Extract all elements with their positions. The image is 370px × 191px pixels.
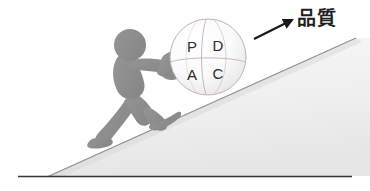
pdca-letter-c: C [213, 65, 224, 82]
pdca-letter-p: P [187, 38, 197, 55]
pdca-letter-a: A [187, 66, 197, 83]
pdca-letter-d: D [213, 37, 224, 54]
direction-arrow-icon [254, 20, 292, 39]
quality-label: 品質 [297, 9, 337, 28]
pdca-ball-sphere [170, 19, 246, 95]
person-back-foot [87, 137, 113, 148]
pdca-ball: P D A C [170, 19, 246, 95]
illustration-canvas: P D A C 品質 [0, 0, 370, 191]
person-head [114, 29, 146, 61]
